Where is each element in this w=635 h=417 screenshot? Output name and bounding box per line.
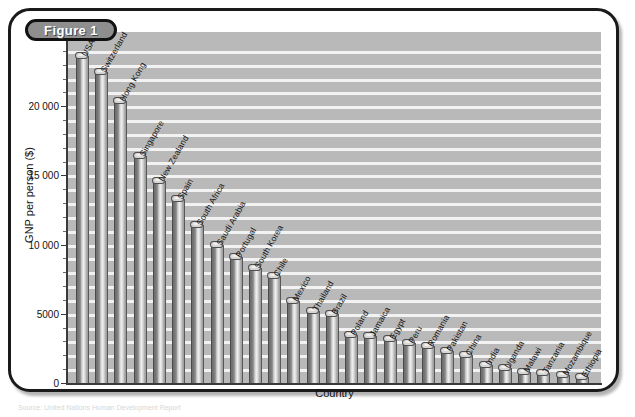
y-axis-minor-tick <box>63 300 66 301</box>
bar-body <box>345 335 358 383</box>
y-axis-tick <box>61 106 66 107</box>
gridline <box>68 258 601 261</box>
bar <box>172 199 183 383</box>
y-axis-tick <box>61 245 66 246</box>
y-axis-minor-tick <box>63 92 66 93</box>
bar <box>422 346 433 383</box>
bar <box>211 245 222 383</box>
y-axis-tick <box>61 383 66 384</box>
bar-body <box>191 225 204 383</box>
bar <box>364 336 375 383</box>
bar-body <box>134 156 147 383</box>
bar-body <box>268 276 281 383</box>
y-axis-minor-tick <box>63 162 66 163</box>
bar <box>268 276 279 383</box>
y-axis-tick <box>61 314 66 315</box>
bar <box>230 257 241 383</box>
bar-body <box>249 268 262 383</box>
gridline <box>68 286 601 289</box>
x-axis-line <box>66 383 602 385</box>
bar <box>134 156 145 383</box>
bar-body <box>364 336 377 383</box>
y-axis-minor-tick <box>63 217 66 218</box>
bar <box>499 368 510 383</box>
y-axis-minor-tick <box>63 341 66 342</box>
y-axis-tick-label: 0 <box>53 378 59 389</box>
gridline <box>68 231 601 234</box>
x-axis-title: Country <box>68 387 601 399</box>
y-axis-minor-tick <box>63 51 66 52</box>
bar-body <box>114 101 127 383</box>
y-axis-minor-tick <box>63 355 66 356</box>
gridline <box>68 51 601 54</box>
gridline <box>68 65 601 68</box>
bar-body <box>153 181 166 383</box>
bar-body <box>403 343 416 383</box>
bar <box>403 343 414 383</box>
figure-badge-label: Figure 1 <box>44 23 98 38</box>
bar <box>460 355 471 383</box>
bar <box>326 314 337 383</box>
y-axis-minor-tick <box>63 286 66 287</box>
y-axis-minor-tick <box>63 189 66 190</box>
gridline <box>68 245 601 248</box>
chart-plot-area <box>68 32 601 383</box>
y-axis-minor-tick <box>63 328 66 329</box>
bar <box>76 56 87 383</box>
gridline <box>68 217 601 220</box>
bar <box>153 181 164 383</box>
figure-badge: Figure 1 <box>25 19 117 41</box>
y-axis-tick <box>61 175 66 176</box>
figure-caption: Source: United Nations Human Development… <box>18 404 618 415</box>
bar <box>287 301 298 383</box>
y-axis-tick-labels: 0500010 00015 00020 000 <box>11 11 68 405</box>
y-axis-title: GNP per person ($) <box>23 105 35 285</box>
gridline <box>68 203 601 206</box>
bar <box>441 351 452 383</box>
gridline <box>68 92 601 95</box>
gridline <box>68 120 601 123</box>
y-axis-minor-tick <box>63 148 66 149</box>
y-axis-minor-tick <box>63 272 66 273</box>
bar <box>307 311 318 383</box>
bar-body <box>384 339 397 383</box>
y-axis-minor-tick <box>63 65 66 66</box>
bar-body <box>422 346 435 383</box>
bar-body <box>287 301 300 383</box>
bar-body <box>230 257 243 383</box>
y-axis-tick-label: 5000 <box>37 308 59 319</box>
bar-body <box>460 355 473 383</box>
bar <box>95 72 106 383</box>
bar-body <box>76 56 89 383</box>
gridline <box>68 189 601 192</box>
y-axis-minor-tick <box>63 134 66 135</box>
bar <box>114 101 125 383</box>
bar <box>191 225 202 383</box>
bar-body <box>441 351 454 383</box>
y-axis-minor-tick <box>63 369 66 370</box>
y-axis-minor-tick <box>63 203 66 204</box>
y-axis-minor-tick <box>63 79 66 80</box>
gridline <box>68 79 601 82</box>
figure-frame: Figure 1 0500010 00015 00020 000 GNP per… <box>8 8 619 392</box>
y-axis-minor-tick <box>63 258 66 259</box>
y-axis-minor-tick <box>63 231 66 232</box>
bar <box>249 268 260 383</box>
bar <box>345 335 356 383</box>
bar <box>384 339 395 383</box>
gridline <box>68 272 601 275</box>
bar <box>557 375 568 383</box>
bar-body <box>326 314 339 383</box>
gridline <box>68 162 601 165</box>
bar <box>480 365 491 383</box>
gridline <box>68 175 601 178</box>
bar-body <box>211 245 224 383</box>
gridline <box>68 106 601 109</box>
bar-body <box>307 311 320 383</box>
bar <box>518 372 529 383</box>
bar-body <box>95 72 108 383</box>
y-axis-minor-tick <box>63 120 66 121</box>
bar-body <box>172 199 185 383</box>
